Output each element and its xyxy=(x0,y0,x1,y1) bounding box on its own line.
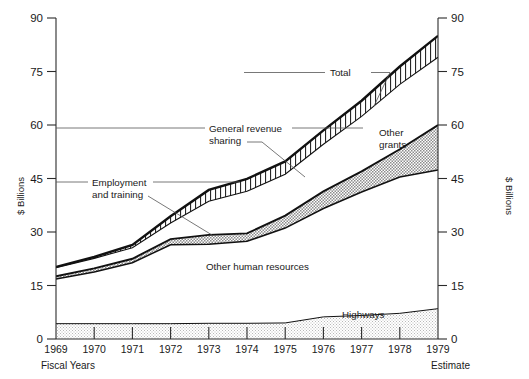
x-year-label: 1972 xyxy=(159,343,183,355)
left-tick-labels: 0153045607590 xyxy=(30,12,43,345)
x-year-label: 1971 xyxy=(121,343,145,355)
x-year-label: 1978 xyxy=(388,343,412,355)
left-tick-label: 0 xyxy=(37,333,43,345)
left-tick-label: 30 xyxy=(30,226,43,238)
x-axis-label-right: Estimate xyxy=(431,360,470,371)
annotation-other-grants-line1: Other xyxy=(379,127,404,138)
axis-left: 0153045607590 $ Billions xyxy=(15,12,56,345)
year-label-group: 1969197019711972197319741975197619771978… xyxy=(44,343,450,355)
right-tick-labels: 0153045607590 xyxy=(451,12,464,345)
axis-right: 0153045607590 $ Billions xyxy=(438,12,515,345)
annotation-employment-label-line2: and training xyxy=(92,189,143,200)
annotation-other-human-resources: Other human resources xyxy=(206,261,309,272)
annotation-employment-label-line1: Employment xyxy=(92,177,147,188)
x-year-label: 1970 xyxy=(83,343,107,355)
annotation-highways: Highways xyxy=(342,309,385,320)
left-tick-group xyxy=(47,18,56,339)
left-tick-label: 90 xyxy=(30,12,43,24)
annotation-grs-label-line2: sharing xyxy=(209,135,241,146)
x-year-label: 1974 xyxy=(235,343,259,355)
chart-figure: 0153045607590 $ Billions 0153045607590 $… xyxy=(0,0,529,379)
right-tick-label: 60 xyxy=(451,119,464,131)
right-axis-title: $ Billions xyxy=(504,177,515,215)
right-tick-label: 15 xyxy=(451,280,464,292)
x-year-label: 1979 xyxy=(426,343,450,355)
right-tick-label: 75 xyxy=(451,66,464,78)
left-tick-label: 60 xyxy=(30,119,43,131)
x-year-label: 1977 xyxy=(350,343,374,355)
right-tick-group xyxy=(438,18,447,339)
right-tick-label: 90 xyxy=(451,12,464,24)
annotation-grs-label-line1: General revenue xyxy=(209,123,283,134)
right-tick-label: 45 xyxy=(451,173,464,185)
left-axis-title: $ Billions xyxy=(15,177,26,215)
annotation-other-grants-line2: grants xyxy=(379,139,406,150)
left-tick-label: 15 xyxy=(30,280,43,292)
annotation-total-label: Total xyxy=(330,67,351,78)
right-tick-label: 30 xyxy=(451,226,464,238)
chart-svg: 0153045607590 $ Billions 0153045607590 $… xyxy=(0,0,529,379)
annotation-other-grants: Other grants xyxy=(379,127,406,150)
left-tick-label: 45 xyxy=(30,173,43,185)
left-tick-label: 75 xyxy=(30,66,43,78)
x-year-label: 1973 xyxy=(197,343,221,355)
x-year-label: 1975 xyxy=(274,343,298,355)
x-axis-label-left: Fiscal Years xyxy=(41,360,95,371)
right-tick-label: 0 xyxy=(451,333,457,345)
x-year-label: 1969 xyxy=(44,343,68,355)
x-year-label: 1976 xyxy=(312,343,336,355)
